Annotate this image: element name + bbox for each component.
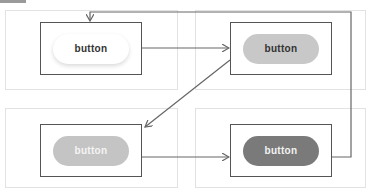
arrow-hover-to-disabled [145,60,230,127]
arrow-active-to-default [90,12,351,157]
transition-arrows [0,0,371,195]
